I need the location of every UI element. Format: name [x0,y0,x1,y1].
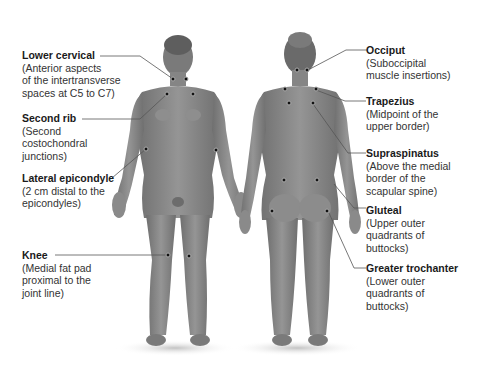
label-title: Trapezius [366,95,438,108]
point-lower-cervical-right [171,77,175,81]
label-desc: scapular spine) [366,185,451,198]
label-gluteal: Gluteal (Upper outer quadrants of buttoc… [366,204,425,254]
front-figure [112,35,248,346]
front-floor-shadow [115,340,235,356]
label-desc: (Midpoint of the [366,108,438,121]
point-knee-right [166,253,170,257]
label-desc: (Second [22,125,87,138]
label-desc: upper border) [366,120,438,133]
point-occiput-right [295,68,299,72]
point-second-rib-right [165,92,169,96]
leader-occiput [308,50,367,70]
point-lateral-epicondyle-right [144,147,148,151]
point-gluteal-right [282,178,286,182]
label-desc: (Lower outer [366,275,458,288]
point-occiput-left [305,68,309,72]
label-desc: epicondyles) [22,197,114,210]
label-title: Knee [22,249,91,262]
label-title: Occiput [366,44,451,57]
point-greater-trochanter-right [270,209,274,213]
point-second-rib-left [191,92,195,96]
label-desc: (2 cm distal to the [22,185,114,198]
label-desc: quadrants of [366,287,458,300]
front-right-leg [146,215,176,335]
label-knee: Knee (Medial fat pad proximal to the joi… [22,249,91,299]
label-greater-trochanter: Greater trochanter (Lower outer quadrant… [366,262,458,312]
label-desc: of the intertransverse [22,74,121,87]
front-left-leg [180,215,210,335]
label-desc: proximal to the [22,274,91,287]
point-trapezius-right [283,87,287,91]
label-desc: (Above the medial [366,160,451,173]
label-title: Gluteal [366,204,425,217]
label-second-rib: Second rib (Second costochondral junctio… [22,112,87,162]
label-desc: costochondral [22,137,87,150]
point-trapezius-left [314,87,318,91]
label-desc: buttocks) [366,242,425,255]
label-desc: (Anterior aspects [22,62,121,75]
label-supraspinatus: Supraspinatus (Above the medial border o… [366,147,451,197]
label-desc: spaces at C5 to C7) [22,87,121,100]
point-greater-trochanter-left [325,209,329,213]
point-lateral-epicondyle-left [214,148,218,152]
back-left-leg [302,218,334,335]
point-lower-cervical-left [184,77,188,81]
point-supraspinatus-right [287,101,291,105]
label-desc: quadrants of [366,229,425,242]
label-trapezius: Trapezius (Midpoint of the upper border) [366,95,438,133]
label-lateral-epicondyle: Lateral epicondyle (2 cm distal to the e… [22,172,114,210]
label-desc: muscle insertions) [366,69,451,82]
label-title: Second rib [22,112,87,125]
tender-points-diagram: Lower cervical (Anterior aspects of the … [0,0,478,372]
point-knee-left [187,254,191,258]
back-right-leg [266,218,298,335]
label-lower-cervical: Lower cervical (Anterior aspects of the … [22,49,121,99]
label-desc: joint line) [22,287,91,300]
front-hair [164,35,192,55]
label-desc: (Suboccipital [366,57,451,70]
label-desc: (Upper outer [366,217,425,230]
back-figure [239,32,361,346]
back-torso [258,86,343,220]
label-desc: (Medial fat pad [22,262,91,275]
label-desc: border of the [366,172,451,185]
label-desc: buttocks) [366,300,458,313]
point-supraspinatus-left [311,101,315,105]
label-desc: junctions) [22,150,87,163]
label-title: Lower cervical [22,49,121,62]
back-floor-shadow [232,340,362,356]
point-gluteal-left [315,178,319,182]
label-title: Supraspinatus [366,147,451,160]
label-title: Greater trochanter [366,262,458,275]
label-occiput: Occiput (Suboccipital muscle insertions) [366,44,451,82]
label-title: Lateral epicondyle [22,172,114,185]
